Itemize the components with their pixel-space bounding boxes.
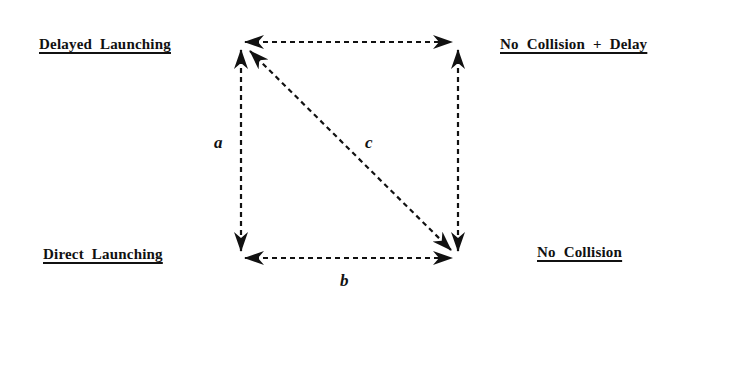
- node-no-collision-plus-delay: No Collision + Delay: [500, 36, 647, 53]
- diagram-canvas: [0, 0, 733, 375]
- node-direct-launching: Direct Launching: [43, 246, 163, 263]
- edge-label-a: a: [214, 133, 223, 153]
- edge-label-b: b: [340, 271, 349, 291]
- node-delayed-launching: Delayed Launching: [39, 36, 171, 53]
- edge-diagonal-c: [250, 51, 451, 250]
- node-no-collision: No Collision: [537, 244, 622, 261]
- edge-label-c: c: [365, 133, 373, 153]
